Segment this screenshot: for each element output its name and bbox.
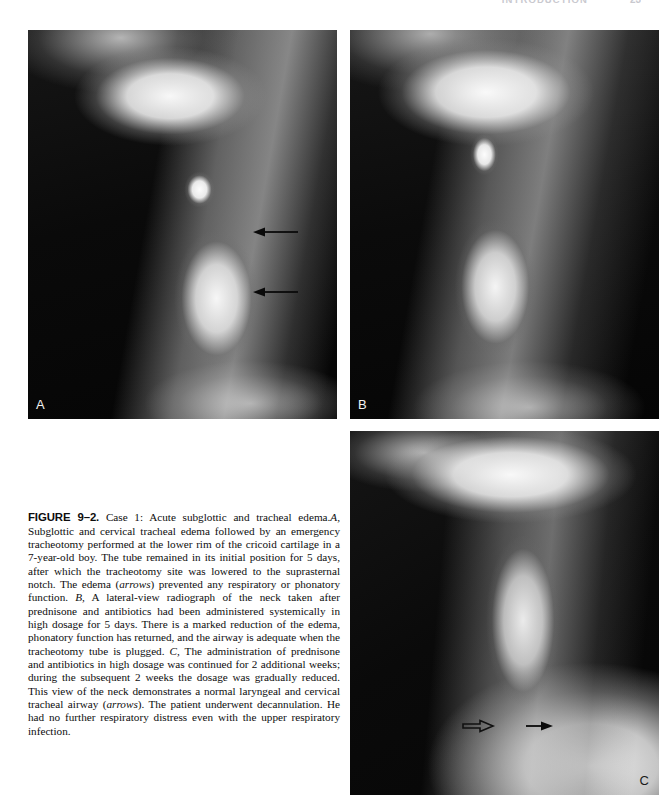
panel-letter-c: C — [640, 774, 649, 787]
textbook-figure-page: { "page": { "background_color": "#ffffff… — [0, 0, 659, 802]
airway-arrow-open — [462, 719, 496, 733]
radiograph-image-a — [28, 30, 337, 419]
running-header: INTRODUCTION 23 — [0, 0, 641, 6]
airway-arrow-solid — [526, 720, 556, 732]
figure-panel-b: B — [350, 30, 659, 419]
radiograph-image-b — [350, 30, 659, 419]
figure-panel-a: A — [28, 30, 337, 419]
caption-segment-4: B, — [75, 591, 85, 603]
caption-segment-0: A, — [330, 511, 340, 523]
caption-segment-6: C, — [170, 645, 180, 657]
figure-caption-title: Case 1: Acute subglottic and tracheal ed… — [99, 511, 330, 523]
panel-letter-a: A — [36, 398, 45, 411]
caption-segment-8: arrows — [106, 698, 137, 710]
edema-arrow-lower — [250, 286, 300, 298]
figure-caption-label: FIGURE 9–2. — [28, 511, 99, 523]
figure-caption-body: A, Subglottic and cervical tracheal edem… — [28, 511, 340, 737]
running-header-title: INTRODUCTION — [502, 0, 588, 5]
radiograph-image-c — [350, 431, 659, 795]
caption-segment-2: arrows — [119, 578, 150, 590]
figure-caption: FIGURE 9–2. Case 1: Acute subglottic and… — [28, 511, 340, 738]
running-header-page-number: 23 — [630, 0, 641, 5]
panel-letter-b: B — [358, 398, 367, 411]
edema-arrow-upper — [250, 226, 300, 238]
figure-panel-c: C — [350, 431, 659, 795]
